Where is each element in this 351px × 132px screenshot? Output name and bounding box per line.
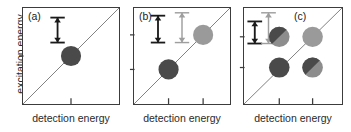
panel-c-graphics [244, 8, 342, 104]
panel-c-tag: (c) [294, 10, 306, 22]
panel-b-x-axis-label: detection energy [133, 111, 231, 125]
cross-peak-upper-left [267, 25, 292, 49]
diagonal-line [244, 8, 342, 104]
panel-a: (a) detection energy [22, 7, 120, 132]
panel-b: (b) detection energy [133, 7, 231, 132]
diagonal-peak-upper-right [302, 27, 323, 47]
two-dimensional-spectroscopy-figure: excitation energy (a) detection energy (… [0, 0, 351, 132]
light-transition-arrow [175, 13, 189, 43]
dark-transition-arrow [151, 16, 165, 43]
panel-a-x-axis-label: detection energy [22, 111, 120, 125]
panel-b-tag: (b) [139, 10, 152, 22]
diagonal-peak-lower-left [269, 57, 290, 77]
panel-a-graphics [23, 8, 119, 104]
panel-c: (c) detection energy [243, 7, 343, 132]
lower-diagonal-peak [158, 59, 178, 79]
panel-c-x-axis-label: detection energy [243, 111, 343, 125]
dark-transition-arrow [247, 21, 262, 43]
arrow-head-up [265, 13, 272, 18]
cross-peak-lower-right [300, 56, 325, 80]
panel-b-graphics [134, 8, 230, 104]
panel-a-plot-area: (a) [22, 7, 120, 105]
upper-diagonal-peak [193, 25, 213, 45]
panel-b-plot-area: (b) [133, 7, 231, 105]
arrow-head-up [179, 13, 186, 18]
panel-c-plot-area: (c) [243, 7, 343, 105]
diagonal-peak [61, 46, 81, 66]
dark-transition-arrow [50, 18, 64, 43]
panel-a-tag: (a) [28, 10, 41, 22]
